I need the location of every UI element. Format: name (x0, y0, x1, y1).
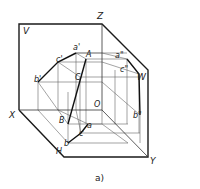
axes (19, 24, 148, 157)
label-C: C (75, 73, 81, 82)
label-b-prime: b' (34, 75, 41, 84)
label-Z: Z (96, 11, 104, 21)
label-H: H (56, 147, 62, 156)
label-A: A (85, 50, 91, 59)
label-b-dbl: b" (133, 111, 142, 120)
label-c: c (79, 129, 84, 138)
label-a-prime: a' (73, 43, 80, 52)
projection-diagram: Z V a' A a" c' W c" b' C O b" X B a c H … (0, 0, 200, 189)
label-Y: Y (150, 156, 157, 166)
label-W: W (137, 72, 147, 82)
label-B: B (59, 116, 65, 125)
label-O: O (94, 100, 100, 109)
figure-caption: a) (95, 173, 104, 183)
label-c-prime: c' (56, 55, 63, 64)
label-X: X (8, 110, 16, 120)
label-c-dbl: c" (120, 65, 128, 74)
label-a-dbl: a" (115, 51, 124, 60)
label-V: V (23, 26, 30, 36)
label-b: b (64, 139, 69, 148)
label-a: a (87, 121, 92, 130)
